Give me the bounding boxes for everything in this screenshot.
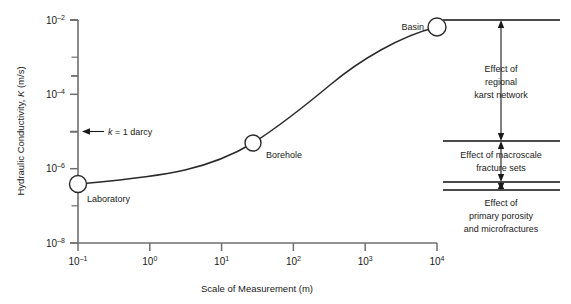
annot-line: Effect of macroscale — [460, 150, 541, 160]
annot-line: primary porosity — [469, 211, 534, 221]
data-point-laboratory[interactable] — [70, 176, 87, 193]
x-axis-title: Scale of Measurement (m) — [201, 283, 313, 294]
darcy-annotation-label: k = 1 darcy — [108, 127, 153, 137]
data-point-borehole[interactable] — [245, 135, 261, 151]
annot-line: Effect of — [485, 64, 518, 74]
data-point-label-borehole: Borehole — [266, 150, 302, 160]
annot-line: Effect of — [485, 198, 518, 208]
y-axis-title: Hydraulic Conductivity, K (m/s) — [15, 66, 26, 195]
annot-line: and microfractures — [464, 224, 539, 234]
hydraulic-conductivity-figure: 10–2 10–4 10–6 10–8 Hydraulic Conductivi… — [0, 0, 571, 304]
chart-svg: 10–2 10–4 10–6 10–8 Hydraulic Conductivi… — [0, 0, 571, 304]
annot-line: karst network — [474, 90, 528, 100]
annot-line: regional — [485, 77, 517, 87]
data-point-label-laboratory: Laboratory — [87, 194, 131, 204]
data-point-label-basin: Basin — [401, 22, 424, 32]
annot-line: fracture sets — [476, 163, 526, 173]
